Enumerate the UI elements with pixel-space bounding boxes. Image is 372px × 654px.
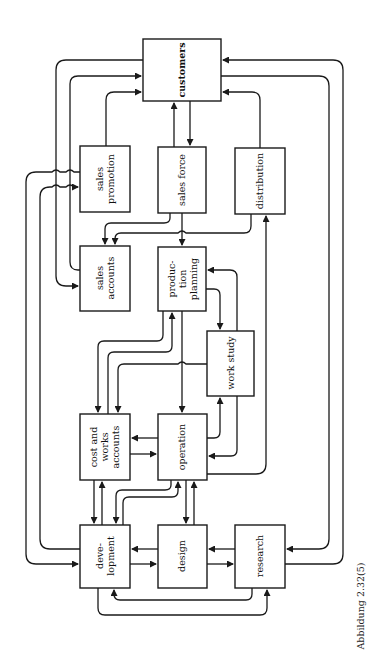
node-operation: operation <box>158 414 207 480</box>
edge-salespromotion-customers <box>106 92 141 146</box>
node-label-line2: accounts <box>105 256 116 299</box>
node-label: operation <box>176 424 187 470</box>
edge-salespromotion-development <box>26 170 80 564</box>
node-label-line1: sales <box>94 266 105 290</box>
node-development: deve- lopment <box>80 525 130 588</box>
node-label-line1: deve- <box>94 543 105 569</box>
edge-development-salespromotion <box>40 185 80 549</box>
edge-operation-development <box>116 480 171 523</box>
node-label-line3: accounts <box>110 425 121 468</box>
node-label: customers <box>176 42 187 97</box>
node-sales-force: sales force <box>158 147 206 213</box>
node-label-line1: produc- <box>166 260 177 297</box>
node-customers: customers <box>143 39 221 101</box>
edge-workstudy-operation <box>209 396 237 456</box>
node-design: design <box>158 525 207 588</box>
node-research: research <box>235 525 285 588</box>
edge-distribution-salesaccounts <box>115 214 251 244</box>
node-label: work study <box>225 336 236 390</box>
node-label-line2: lopment <box>105 536 116 576</box>
node-sales-promotion: sales promotion <box>80 146 130 212</box>
node-label-line2: promotion <box>105 154 116 204</box>
node-label-line3: planning <box>188 258 199 300</box>
figure-caption: Abbildung 2.32(5) <box>355 562 366 650</box>
edge-distribution-customers <box>223 92 260 148</box>
node-label: sales force <box>176 154 187 206</box>
flow-diagram: customers sales promotion sales force di… <box>0 0 372 654</box>
node-label-line1: sales <box>94 167 105 191</box>
node-label: distribution <box>254 153 265 209</box>
node-work-study: work study <box>207 331 254 396</box>
node-label-line2: tion <box>177 270 188 289</box>
node-cost-works-accounts: cost and works accounts <box>80 414 130 480</box>
edge-research-customers <box>223 60 343 564</box>
node-label-line2: works <box>99 432 110 461</box>
node-label: design <box>176 540 187 572</box>
node-production-planning: produc- tion planning <box>158 247 206 311</box>
node-label: research <box>254 535 265 577</box>
node-distribution: distribution <box>235 148 285 214</box>
edge-workstudy-costaccounts <box>118 362 207 412</box>
edge-research-development <box>114 588 252 600</box>
edge-operation-workstudy <box>207 398 220 438</box>
edge-productionplanning-workstudy <box>206 289 220 329</box>
node-sales-accounts: sales accounts <box>80 246 130 311</box>
edge-workstudy-productionplanning <box>208 270 237 331</box>
node-label-line1: cost and <box>88 427 99 468</box>
edge-development-research <box>98 588 267 615</box>
